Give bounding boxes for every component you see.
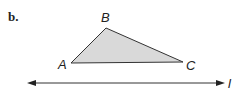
arrowhead-right-icon bbox=[216, 80, 225, 86]
vertex-label-c: C bbox=[186, 59, 195, 72]
arrowhead-left-icon bbox=[27, 80, 36, 86]
vertex-label-b: B bbox=[101, 11, 110, 24]
vertex-label-a: A bbox=[58, 58, 67, 71]
triangle-abc bbox=[71, 28, 183, 63]
geometry-figure bbox=[0, 0, 233, 96]
line-label-l: l bbox=[228, 77, 231, 90]
